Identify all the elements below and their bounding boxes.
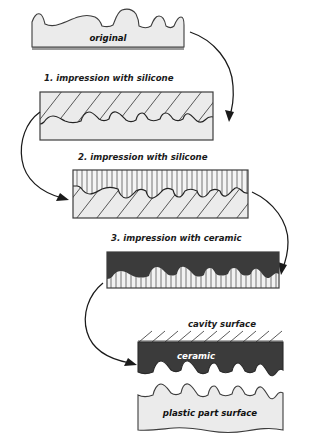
cavity-surface-label: cavity surface <box>188 319 256 329</box>
step1-caption: 1. impression with silicone <box>44 73 174 83</box>
result-ceramic-block: cavity surface ceramic <box>138 319 283 376</box>
result-plastic-block: plastic part surface <box>138 384 283 433</box>
stage-step1: 1. impression with silicone <box>16 73 246 150</box>
process-diagram: original 1. impression with silicone <box>0 0 323 436</box>
arrow-step3-to-result <box>85 283 137 366</box>
step2-caption: 2. impression with silicone <box>78 152 208 162</box>
arrow-4-path <box>85 283 130 363</box>
cavity-hatch-ticks <box>138 331 283 342</box>
stage-original: original <box>32 9 184 50</box>
plastic-part-surface-label: plastic part surface <box>162 408 258 418</box>
ceramic-label: ceramic <box>177 351 215 361</box>
stage-step2: 2. impression with silicone <box>49 152 279 228</box>
original-caption: original <box>89 33 127 43</box>
step3-caption: 3. impression with ceramic <box>111 233 242 243</box>
arrow-1-head <box>225 110 234 122</box>
diagram-canvas: original 1. impression with silicone <box>0 0 323 436</box>
stage-step3: 3. impression with ceramic <box>107 233 279 288</box>
